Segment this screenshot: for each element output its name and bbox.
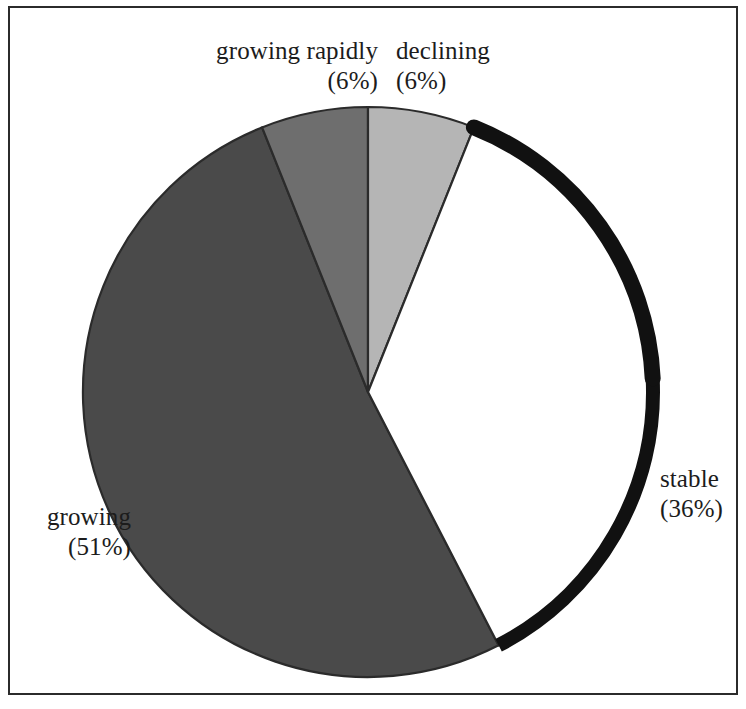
pie-label-stable-percent: (36%): [660, 494, 746, 524]
pie-label-growing-percent: (51%): [6, 532, 131, 562]
pie-label-stable: stable (36%): [660, 464, 746, 523]
pie-label-declining-percent: (6%): [396, 66, 596, 96]
pie-label-growing-rapidly-name: growing rapidly: [168, 36, 378, 66]
pie-chart-graphic: [0, 0, 746, 709]
pie-label-growing-rapidly: growing rapidly (6%): [168, 36, 378, 95]
pie-label-stable-name: stable: [660, 464, 746, 494]
pie-label-declining: declining (6%): [396, 36, 596, 95]
pie-label-growing-rapidly-percent: (6%): [168, 66, 378, 96]
pie-label-declining-name: declining: [396, 36, 596, 66]
pie-label-growing-name: growing: [6, 502, 131, 532]
pie-label-growing: growing (51%): [6, 502, 131, 561]
pie-chart-figure: growing rapidly (6%) declining (6%) stab…: [0, 0, 746, 709]
